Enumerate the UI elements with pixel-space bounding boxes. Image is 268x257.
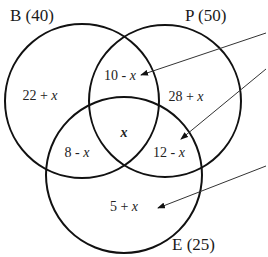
region-p-e: 12 - x (153, 146, 185, 160)
region-e-only-constant: 5 + (110, 199, 132, 214)
arrow-to-p-e-region (181, 69, 266, 139)
venn-diagram (0, 0, 268, 257)
region-center-variable: x (121, 125, 128, 140)
set-label-p: P (50) (185, 7, 226, 24)
region-b-p: 10 - x (104, 69, 136, 83)
region-p-only-constant: 28 + (168, 89, 197, 104)
region-b-p-constant: 10 - (104, 68, 130, 83)
region-b-p-e-center: x (121, 126, 128, 140)
region-p-only: 28 + x (168, 90, 203, 104)
arrow-to-b-p-region (141, 33, 266, 75)
region-p-e-variable: x (179, 145, 185, 160)
region-e-only: 5 + x (110, 200, 138, 214)
set-label-e: E (25) (172, 236, 215, 253)
region-b-p-variable: x (130, 68, 136, 83)
region-b-only-variable: x (51, 88, 57, 103)
region-p-only-variable: x (197, 89, 203, 104)
region-b-only-constant: 22 + (22, 88, 51, 103)
region-b-only: 22 + x (22, 89, 57, 103)
arrow-to-e-only-region (158, 166, 266, 208)
set-label-b: B (40) (10, 7, 54, 24)
region-b-e-variable: x (83, 145, 89, 160)
region-b-e-constant: 8 - (65, 145, 84, 160)
region-p-e-constant: 12 - (153, 145, 179, 160)
region-b-e: 8 - x (65, 146, 90, 160)
region-e-only-variable: x (132, 199, 138, 214)
